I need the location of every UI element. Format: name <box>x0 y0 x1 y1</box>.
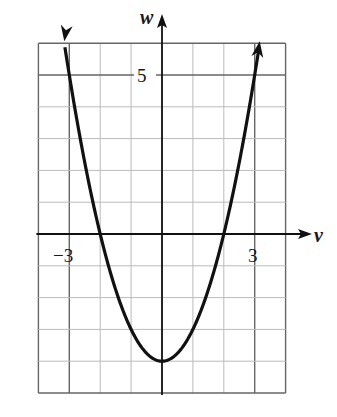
x-tick-3: 3 <box>248 245 258 266</box>
curve-arrow-icon <box>61 24 73 41</box>
x-axis-label: v <box>314 224 324 246</box>
x-tick-neg3: −3 <box>53 245 73 266</box>
y-tick-5: 5 <box>137 65 147 86</box>
y-axis-label: w <box>140 6 154 28</box>
axes <box>36 14 312 395</box>
parabola-chart: w v 5 −3 3 <box>0 0 337 417</box>
